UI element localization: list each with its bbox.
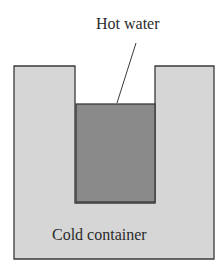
diagram-canvas [0, 0, 220, 263]
cold-container-label: Cold container [52, 226, 147, 244]
hot-water-label: Hot water [96, 15, 160, 33]
hot-water-leader-line [117, 43, 136, 103]
hot-water [76, 104, 155, 202]
